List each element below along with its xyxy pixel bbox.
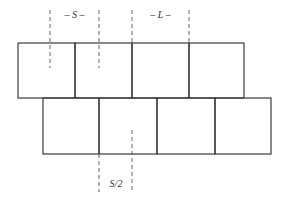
bottom-box-3 <box>157 98 215 154</box>
block-diagram: – S – – L – S/2 <box>0 0 284 204</box>
bottom-box-4 <box>215 98 271 154</box>
length-label: – L – <box>149 9 171 20</box>
top-box-1 <box>18 43 75 98</box>
top-box-2 <box>75 43 132 98</box>
top-row <box>18 43 244 98</box>
bottom-row <box>43 98 271 154</box>
top-box-4 <box>189 43 244 98</box>
bottom-box-2 <box>99 98 157 154</box>
half-spacing-label: S/2 <box>110 178 123 189</box>
top-box-3 <box>132 43 189 98</box>
spacing-label: – S – <box>64 9 86 20</box>
bottom-box-1 <box>43 98 99 154</box>
